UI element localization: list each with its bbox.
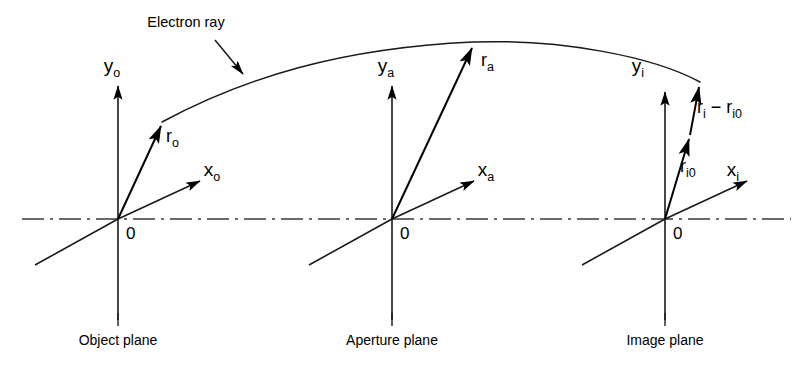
- r-a-subscript: a: [487, 60, 494, 74]
- aperture-plane-x-axis: [392, 181, 474, 219]
- object-plane-y-axis-label: yo: [104, 55, 121, 80]
- object-plane-x-axis-label: xo: [204, 159, 221, 184]
- r-a-vector-label: ra: [481, 50, 494, 74]
- object-plane-origin-label: 0: [126, 224, 135, 243]
- r-a-vector: [392, 48, 472, 219]
- image-plane-group: yi xi ri0 ri − ri0 0 Image plane: [582, 55, 747, 348]
- aperture-plane-y-axis-letter: y: [378, 55, 388, 76]
- electron-ray-leader-line: [215, 40, 243, 74]
- aperture-plane-origin-label: 0: [400, 224, 409, 243]
- r-i0-vector-label: ri0: [680, 156, 696, 180]
- aperture-plane-y-axis-label: ya: [378, 55, 395, 80]
- r-i0-subscript-2: i0: [732, 107, 742, 121]
- aperture-plane-caption: Aperture plane: [346, 332, 438, 348]
- r-o-vector-label: ro: [166, 126, 179, 150]
- r-i0-subscript: i0: [686, 166, 696, 180]
- object-plane-x-axis-lower: [35, 219, 118, 265]
- image-plane-y-axis-label: yi: [632, 55, 644, 80]
- object-plane-caption: Object plane: [79, 332, 158, 348]
- image-plane-x-axis-lower: [582, 219, 665, 265]
- aperture-plane-x-axis-label: xa: [478, 159, 495, 184]
- electron-ray-label: Electron ray: [147, 14, 225, 30]
- diagram-canvas: Electron ray yo xo ro 0 Object plane: [0, 0, 807, 367]
- object-plane-y-axis-letter: y: [104, 55, 114, 76]
- object-plane-x-axis-subscript: o: [213, 170, 220, 184]
- aperture-plane-x-axis-lower: [309, 219, 392, 265]
- aperture-plane-x-axis-letter: x: [478, 159, 488, 180]
- image-plane-x-axis: [665, 181, 747, 219]
- electron-ray-diagram-figure: Electron ray yo xo ro 0 Object plane: [0, 0, 807, 367]
- object-plane-group: yo xo ro 0 Object plane: [35, 55, 220, 348]
- electron-ray-curve: [162, 42, 700, 122]
- image-plane-origin-label: 0: [673, 224, 682, 243]
- object-plane-y-axis-subscript: o: [113, 66, 120, 80]
- image-plane-x-axis-subscript: i: [736, 170, 739, 184]
- image-plane-x-axis-letter: x: [727, 159, 737, 180]
- r-i-minus-r-i0-vector-label: ri − ri0: [697, 97, 742, 121]
- image-plane-caption: Image plane: [626, 332, 703, 348]
- image-plane-y-axis-letter: y: [632, 55, 642, 76]
- aperture-plane-y-axis-subscript: a: [387, 66, 394, 80]
- image-plane-y-axis-subscript: i: [641, 66, 644, 80]
- aperture-plane-group: ya xa ra 0 Aperture plane: [309, 48, 494, 348]
- object-plane-x-axis-letter: x: [204, 159, 214, 180]
- aperture-plane-x-axis-subscript: a: [487, 170, 494, 184]
- r-o-subscript: o: [172, 136, 179, 150]
- image-plane-x-axis-label: xi: [727, 159, 739, 184]
- object-plane-x-axis: [118, 181, 200, 219]
- minus-sign: − r: [706, 97, 733, 117]
- r-o-vector: [118, 126, 161, 219]
